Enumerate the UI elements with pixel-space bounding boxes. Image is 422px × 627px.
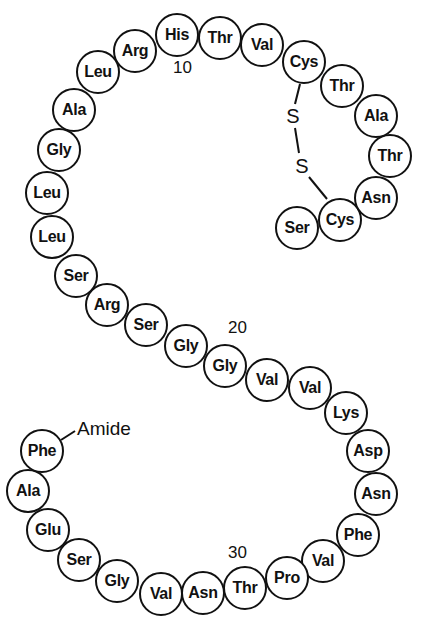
- residue-label: Val: [312, 552, 334, 570]
- residue-circle-33: Gly: [95, 559, 139, 603]
- residue-label: Thr: [378, 147, 403, 165]
- residue-circle-6: Thr: [320, 64, 364, 108]
- disulfide-bond-line: [295, 128, 299, 153]
- residue-circle-35: Glu: [26, 508, 70, 552]
- residue-label: Pro: [274, 569, 300, 587]
- position-number-label: 10: [173, 58, 192, 78]
- residue-circle-20: Gly: [164, 324, 208, 368]
- residue-label: Val: [299, 379, 321, 397]
- residue-circle-14: Gly: [37, 128, 81, 172]
- disulfide-bond-line: [309, 177, 327, 199]
- residue-circle-24: Lys: [324, 391, 368, 435]
- residue-label: Gly: [105, 572, 130, 590]
- residue-circle-26: Asn: [354, 472, 398, 516]
- residue-circle-31: Asn: [181, 571, 225, 615]
- residue-circle-4: Thr: [368, 134, 412, 178]
- residue-circle-37: Phe: [20, 429, 64, 473]
- residue-label: Ser: [64, 267, 89, 285]
- residue-label: Asn: [188, 584, 217, 602]
- residue-label: Asn: [361, 485, 390, 503]
- residue-label: Gly: [174, 337, 199, 355]
- residue-label: Asp: [353, 442, 382, 460]
- residue-label: Ser: [134, 316, 159, 334]
- residue-circle-15: Leu: [25, 171, 69, 215]
- residue-label: Lys: [333, 404, 359, 422]
- residue-label: Thr: [208, 29, 233, 47]
- residue-circle-13: Ala: [52, 88, 96, 132]
- residue-label: Val: [150, 585, 172, 603]
- residue-label: Thr: [330, 77, 355, 95]
- residue-label: Val: [251, 36, 273, 54]
- residue-label: Ser: [285, 219, 310, 237]
- amide-bond-line: [61, 431, 75, 440]
- residue-label: Asn: [361, 189, 390, 207]
- residue-circle-1: Ser: [275, 206, 319, 250]
- peptide-diagram: SerCysAsnThrAlaThrCysValThrHisArgLeuAlaG…: [0, 0, 422, 627]
- residue-label: His: [165, 26, 189, 44]
- residue-circle-16: Leu: [30, 215, 74, 259]
- residue-circle-32: Val: [139, 572, 183, 616]
- residue-circle-29: Pro: [265, 556, 309, 600]
- disulfide-bond-line: [295, 84, 300, 104]
- residue-label: Cys: [290, 53, 318, 71]
- residue-circle-7: Cys: [282, 40, 326, 84]
- residue-circle-25: Asp: [346, 429, 390, 473]
- residue-label: Leu: [33, 184, 61, 202]
- residue-label: Ser: [67, 551, 92, 569]
- residue-label: Glu: [35, 521, 61, 539]
- residue-label: Ala: [364, 107, 388, 125]
- residue-circle-30: Thr: [223, 566, 267, 610]
- sulfur-atom-label: S: [286, 105, 299, 128]
- residue-circle-21: Gly: [203, 344, 247, 388]
- residue-circle-3: Asn: [354, 176, 398, 220]
- residue-circle-12: Leu: [76, 50, 120, 94]
- residue-label: Arg: [94, 296, 121, 314]
- residue-circle-36: Ala: [6, 469, 50, 513]
- position-number-label: 20: [228, 318, 247, 338]
- residue-label: Thr: [233, 579, 258, 597]
- residue-circle-5: Ala: [354, 94, 398, 138]
- residue-circle-8: Val: [240, 23, 284, 67]
- residue-label: Ala: [16, 482, 40, 500]
- residue-circle-19: Ser: [124, 303, 168, 347]
- residue-label: Leu: [38, 228, 66, 246]
- residue-circle-22: Val: [245, 358, 289, 402]
- residue-label: Gly: [213, 357, 238, 375]
- residue-circle-10: His: [155, 13, 199, 57]
- residue-label: Leu: [84, 63, 112, 81]
- residue-label: Ala: [62, 101, 86, 119]
- residue-label: Gly: [47, 141, 72, 159]
- residue-label: Arg: [122, 42, 149, 60]
- position-number-label: 30: [228, 543, 247, 563]
- sulfur-atom-label: S: [295, 155, 308, 178]
- residue-circle-9: Thr: [198, 16, 242, 60]
- residue-label: Phe: [28, 442, 56, 460]
- residue-label: Phe: [344, 526, 372, 544]
- residue-circle-11: Arg: [113, 29, 157, 73]
- residue-circle-18: Arg: [85, 283, 129, 327]
- residue-label: Cys: [326, 211, 354, 229]
- residue-label: Val: [256, 371, 278, 389]
- amide-terminal-label: Amide: [77, 418, 131, 440]
